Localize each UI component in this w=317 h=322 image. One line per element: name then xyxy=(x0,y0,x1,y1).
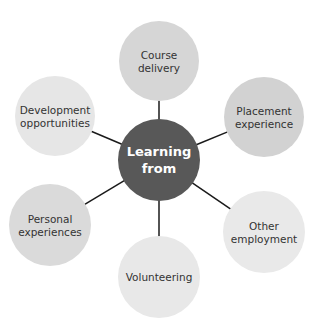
hub-label-line-1: Learning xyxy=(127,144,192,159)
node-label-other-employment-line-1: Other xyxy=(249,220,279,232)
node-label-development-opportunities-line-1: Development xyxy=(20,104,91,116)
node-course-delivery: Coursedelivery xyxy=(119,21,199,101)
hub-label-line-2: from xyxy=(142,161,177,176)
spoke-personal-experiences xyxy=(83,180,125,205)
node-label-course-delivery-line-1: Course xyxy=(141,49,178,61)
spoke-other-employment xyxy=(191,182,232,210)
node-volunteering: Volunteering xyxy=(118,236,200,318)
node-label-personal-experiences-line-1: Personal xyxy=(28,213,73,225)
node-label-personal-experiences-line-2: experiences xyxy=(18,226,82,238)
spoke-development-opportunities xyxy=(90,131,123,145)
node-label-placement-experience-line-1: Placement xyxy=(236,105,291,117)
node-other-employment: Otheremployment xyxy=(223,191,305,273)
node-label-course-delivery-line-2: delivery xyxy=(138,62,180,74)
hub: Learning from xyxy=(118,119,200,201)
spoke-placement-experience xyxy=(195,131,229,145)
node-label-other-employment-line-2: employment xyxy=(231,233,297,245)
node-placement-experience: Placementexperience xyxy=(224,77,304,157)
node-label-volunteering-line-1: Volunteering xyxy=(126,271,193,283)
learning-from-diagram: CoursedeliveryPlacementexperienceOtherem… xyxy=(0,0,317,322)
node-label-placement-experience-line-2: experience xyxy=(235,118,293,130)
hub-circle xyxy=(118,119,200,201)
node-label-development-opportunities-line-2: opportunities xyxy=(20,117,90,129)
node-development-opportunities: Developmentopportunities xyxy=(15,76,95,156)
node-personal-experiences: Personalexperiences xyxy=(9,184,91,266)
